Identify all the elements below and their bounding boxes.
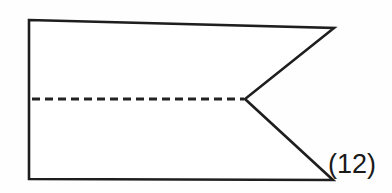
figure-number-label: (12) — [328, 149, 376, 179]
figure-container: (12) — [0, 0, 392, 193]
